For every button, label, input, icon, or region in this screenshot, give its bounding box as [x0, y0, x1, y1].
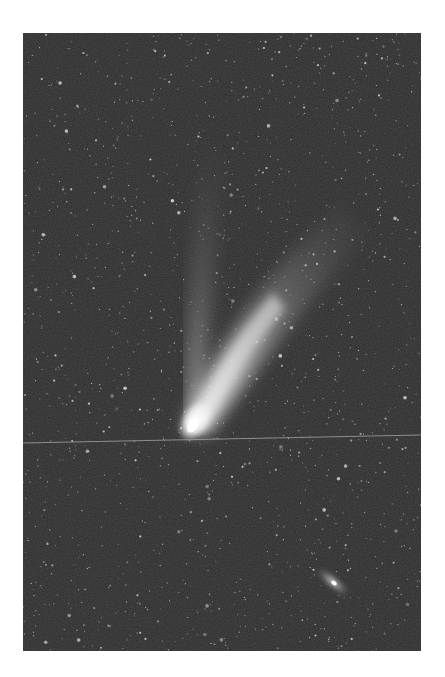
starfield-scene	[23, 33, 421, 651]
comet-photograph	[23, 33, 421, 651]
